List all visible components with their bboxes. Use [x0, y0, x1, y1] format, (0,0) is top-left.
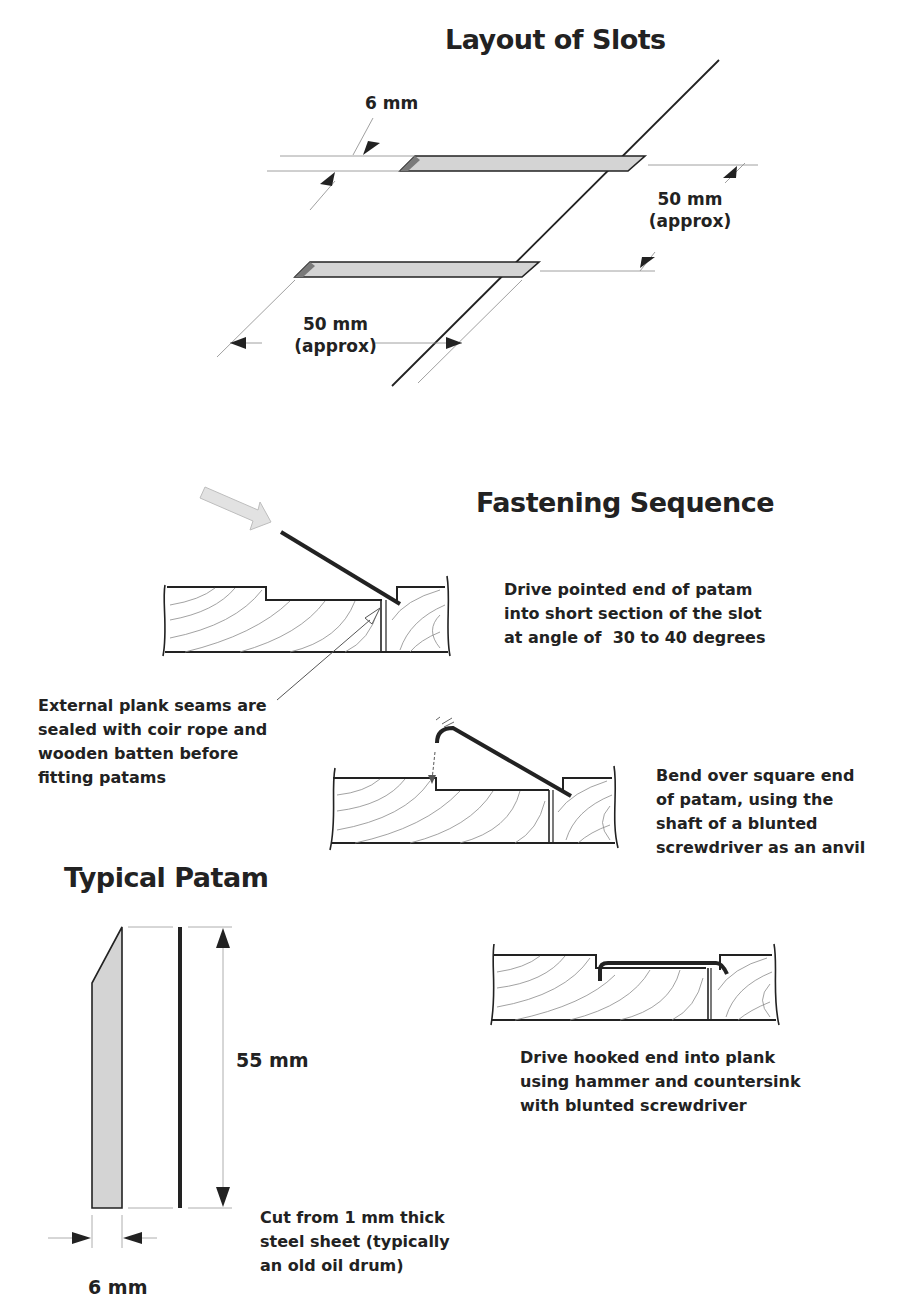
slot-spacing-dimension: 50 mm (approx) [645, 188, 735, 232]
step1-drawing [163, 487, 450, 700]
step3-caption: Drive hooked end into plank using hammer… [520, 1046, 801, 1118]
seam-note: External plank seams are sealed with coi… [38, 694, 267, 790]
slot-spacing-qualifier: (approx) [645, 210, 735, 232]
upper-slot [400, 156, 645, 171]
patam-material-note: Cut from 1 mm thick steel sheet (typical… [260, 1206, 450, 1278]
step2-drawing [330, 717, 618, 850]
slot-length-dimension: 50 mm (approx) [288, 313, 383, 357]
step2-caption: Bend over square end of patam, using the… [656, 764, 865, 860]
patam-length-dimension: 55 mm [236, 1049, 309, 1071]
patam-profile [92, 927, 122, 1208]
fastening-sequence-title: Fastening Sequence [476, 487, 774, 518]
slot-length-value: 50 mm [288, 313, 383, 335]
typical-patam-title: Typical Patam [64, 862, 268, 893]
patam-drawing [48, 927, 232, 1248]
patam-width-dimension: 6 mm [88, 1276, 147, 1298]
slot-spacing-value: 50 mm [645, 188, 735, 210]
step3-drawing [491, 944, 779, 1025]
lower-slot [295, 262, 539, 277]
step1-caption: Drive pointed end of patam into short se… [504, 578, 765, 650]
slot-length-qualifier: (approx) [288, 335, 383, 357]
slot-width-dimension: 6 mm [365, 92, 418, 114]
